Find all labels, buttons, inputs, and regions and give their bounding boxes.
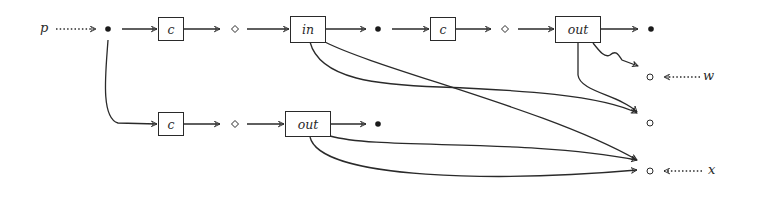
filled-node-2 <box>375 26 381 32</box>
hollow-node-w <box>647 74 653 80</box>
box-top-c2: c <box>430 17 456 41</box>
filled-node-4 <box>375 121 381 127</box>
input-label-x: x <box>708 163 715 176</box>
filled-node-1 <box>105 26 111 32</box>
edge-dot1-c3 <box>105 40 157 124</box>
diamond-node-3 <box>232 121 239 128</box>
diamond-node-2 <box>502 26 509 33</box>
edge-in-circle2 <box>310 42 637 113</box>
diamond-node-1 <box>232 26 239 33</box>
box-top-c1: c <box>158 17 184 41</box>
box-bottom-c: c <box>158 112 184 136</box>
box-top-in: in <box>290 16 326 43</box>
edge-out2-circle3b <box>310 137 637 176</box>
edge-out-circle2 <box>578 43 637 112</box>
edge-out2-circle3a <box>330 136 637 160</box>
hollow-node-x <box>647 168 653 174</box>
edge-out-circle1-wavy <box>593 43 638 66</box>
wiring-diagram <box>0 0 762 197</box>
input-label-w: w <box>703 69 714 82</box>
box-top-out: out <box>555 16 601 43</box>
filled-node-3 <box>648 26 654 32</box>
input-label-p: p <box>40 21 48 34</box>
hollow-node-mid <box>647 120 653 126</box>
box-bottom-out: out <box>285 111 331 137</box>
